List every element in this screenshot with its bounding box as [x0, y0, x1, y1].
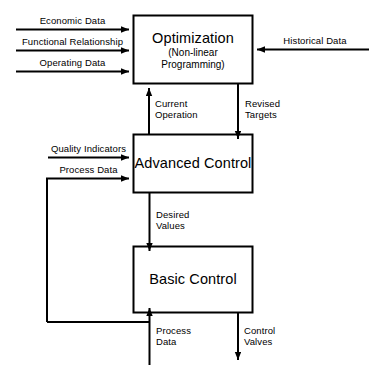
box-basic-control [134, 247, 253, 313]
edge-process-data-feedback-line [47, 179, 129, 323]
edge-label-current-operation-line1: Current [155, 98, 198, 109]
edge-label-control-valves-line2: Valves [244, 336, 275, 347]
edge-label-quality-indicators: Quality Indicators [48, 143, 129, 154]
edge-label-process-data-feedback: Process Data [48, 164, 129, 175]
edge-label-desired-values-line1: Desired [156, 209, 189, 220]
edge-label-process-data-input-line2: Data [156, 336, 191, 347]
edge-label-revised-targets-line1: Revised [245, 98, 280, 109]
edge-label-operating-data: Operating Data [16, 57, 129, 68]
edge-label-current-operation-line2: Operation [155, 109, 198, 120]
edge-label-control-valves: Control Valves [244, 325, 275, 347]
diagram-vector-layer [0, 0, 381, 373]
box-optimization [134, 16, 253, 84]
edge-label-control-valves-line1: Control [244, 325, 275, 336]
box-advanced-control [134, 135, 253, 193]
edge-label-current-operation: Current Operation [155, 98, 198, 120]
diagram-canvas: Optimization (Non-linear Programming) Ad… [0, 0, 381, 373]
edge-label-process-data-input-line1: Process [156, 325, 191, 336]
edge-label-desired-values: Desired Values [156, 209, 189, 231]
edge-label-revised-targets: Revised Targets [245, 98, 280, 120]
edge-label-desired-values-line2: Values [156, 220, 189, 231]
edge-label-functional-relationship: Functional Relationship [16, 36, 129, 47]
edge-label-revised-targets-line2: Targets [245, 109, 280, 120]
edge-label-economic-data: Economic Data [16, 15, 129, 26]
edge-label-historical-data: Historical Data [260, 35, 370, 46]
edge-label-process-data-input: Process Data [156, 325, 191, 347]
